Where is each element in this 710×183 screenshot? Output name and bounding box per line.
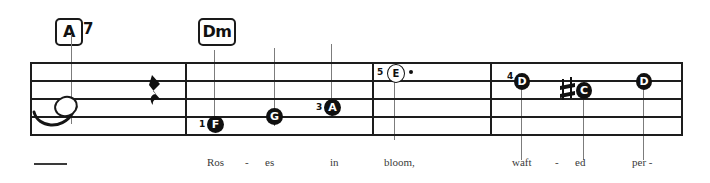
note-d-last-letter: D xyxy=(639,76,648,87)
fingering-f: 1 xyxy=(199,120,205,129)
note-c-sharp[interactable]: C xyxy=(576,82,592,99)
lyric-dash-2: - xyxy=(555,157,559,168)
beat-guide-e xyxy=(394,78,395,140)
barline-end xyxy=(681,62,683,135)
note-f-letter: F xyxy=(212,119,220,130)
barline-1 xyxy=(185,62,187,135)
sharp-icon xyxy=(559,76,577,110)
lyric-lead-dash xyxy=(34,163,67,165)
note-c-letter: C xyxy=(580,85,588,96)
note-g[interactable]: G xyxy=(266,108,283,125)
quarter-rest-icon xyxy=(146,72,168,116)
chord-symbol-a-extension: 7 xyxy=(83,22,93,37)
chord-symbol-dm[interactable]: Dm xyxy=(198,18,236,46)
fingering-d1: 4 xyxy=(507,72,513,81)
beat-guide-c xyxy=(583,94,584,160)
augmentation-dot-e xyxy=(409,70,413,74)
note-g-letter: G xyxy=(270,111,279,122)
note-d-last[interactable]: D xyxy=(636,73,652,90)
chord-symbol-a-label: A xyxy=(63,24,75,40)
staff-line-5 xyxy=(30,134,683,136)
note-f[interactable]: F xyxy=(207,116,224,133)
fingering-a: 3 xyxy=(316,103,322,112)
note-a[interactable]: A xyxy=(324,99,341,116)
note-a-letter: A xyxy=(328,102,337,113)
lyric-ed: ed xyxy=(575,157,585,168)
fingering-e: 5 xyxy=(377,68,383,77)
lyric-ros: Ros xyxy=(207,157,224,168)
lyric-bloom: bloom, xyxy=(384,157,415,168)
note-d-first-letter: D xyxy=(517,76,526,87)
chord-symbol-a[interactable]: A xyxy=(55,18,83,46)
lyric-es: es xyxy=(265,157,274,168)
note-d-first[interactable]: D xyxy=(514,73,530,90)
lyric-per: per - xyxy=(632,157,652,168)
sheet-music-system: A 7 Dm 1 F G 3 xyxy=(0,0,710,183)
note-e[interactable]: E xyxy=(387,64,405,83)
lyric-dash-1: - xyxy=(245,157,249,168)
note-e-letter: E xyxy=(393,69,400,79)
lyric-in: in xyxy=(330,157,339,168)
staff-line-4 xyxy=(30,116,683,118)
lyric-waft: waft xyxy=(512,157,532,168)
chord-symbol-dm-label: Dm xyxy=(203,24,232,40)
staff-line-1 xyxy=(30,62,683,64)
barline-3 xyxy=(490,62,492,135)
barline-2 xyxy=(372,62,374,135)
